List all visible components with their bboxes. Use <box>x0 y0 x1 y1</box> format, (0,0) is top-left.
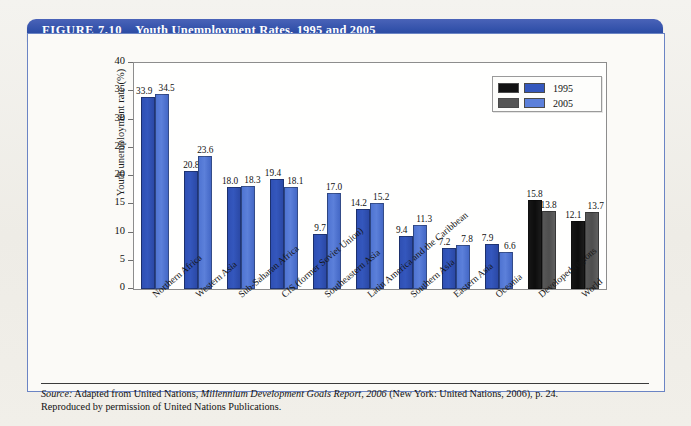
legend-item-2005: 2005 <box>498 96 596 110</box>
source-report-title: Millennium Development Goals Report, 200… <box>201 388 387 399</box>
bar-fill <box>356 209 370 289</box>
legend-label-2005: 2005 <box>553 98 573 109</box>
bar-fill <box>284 187 298 289</box>
bar-value-label: 7.8 <box>461 234 473 244</box>
bar-group: 33.934.5 <box>134 63 177 289</box>
bar-value-label: 18.1 <box>287 176 303 186</box>
bar-value-label: 15.2 <box>373 192 389 202</box>
legend-label-1995: 1995 <box>553 83 573 94</box>
legend-swatch-dark-1995 <box>498 83 519 93</box>
bar-value-label: 18.3 <box>244 175 260 185</box>
source-line1-b: (New York: United Nations, 2006), p. 24. <box>387 388 558 399</box>
bar-value-label: 9.4 <box>396 225 408 235</box>
bar-value-label: 15.8 <box>526 189 542 199</box>
bar-value-label: 9.7 <box>314 223 326 233</box>
legend-item-1995: 1995 <box>498 81 596 95</box>
bar-value-label: 19.4 <box>265 168 281 178</box>
bar-value-label: 13.7 <box>588 201 604 211</box>
y-tick-label: 20 <box>97 168 125 179</box>
source-line1-a: Adapted from United Nations, <box>72 388 200 399</box>
bar-2005: 18.3 <box>241 63 255 289</box>
bar-value-label: 18.0 <box>222 176 238 186</box>
y-tick-label: 15 <box>97 196 125 207</box>
bar-2005: 34.5 <box>155 63 169 289</box>
legend-swatch-dark-2005 <box>498 98 519 108</box>
y-tick-label: 35 <box>97 83 125 94</box>
chart-legend: 1995 2005 <box>492 76 602 112</box>
legend-swatch-blue-2005 <box>524 98 545 108</box>
source-divider <box>41 383 649 384</box>
bar-2005: 23.6 <box>198 63 212 289</box>
y-tick-label: 40 <box>97 55 125 66</box>
legend-swatch-blue-1995 <box>524 83 545 93</box>
bar-value-label: 34.5 <box>159 83 175 93</box>
source-prefix: Source: <box>41 388 72 399</box>
source-note: Source: Adapted from United Nations, Mil… <box>41 388 656 413</box>
bar-value-label: 20.8 <box>183 160 199 170</box>
bar-value-label: 13.8 <box>540 200 556 210</box>
bar-1995: 33.9 <box>141 63 155 289</box>
x-axis-category-labels: Northern AfricaWestern AsiaSub-Saharan A… <box>133 291 605 361</box>
bar-value-label: 11.3 <box>416 214 432 224</box>
source-line2: Reproduced by permission of United Natio… <box>41 401 281 412</box>
bar-2005: 7.8 <box>456 63 470 289</box>
y-tick-label: 10 <box>97 225 125 236</box>
bar-value-label: 12.1 <box>565 210 581 220</box>
bar-fill <box>198 156 212 289</box>
bar-value-label: 7.9 <box>482 233 494 243</box>
chart-area: Youth unemployment rate (%) 051015202530… <box>27 41 663 341</box>
bar-1995: 18.0 <box>227 63 241 289</box>
bar-value-label: 33.9 <box>136 86 152 96</box>
bar-fill <box>528 200 542 289</box>
bar-value-label: 23.6 <box>197 145 213 155</box>
bar-fill <box>141 97 155 289</box>
bar-value-label: 17.0 <box>326 182 342 192</box>
bar-fill <box>241 186 255 289</box>
bar-value-label: 14.2 <box>351 198 367 208</box>
y-tick-label: 5 <box>97 253 125 264</box>
bar-fill <box>155 94 169 289</box>
bar-value-label: 6.6 <box>504 241 516 251</box>
y-tick-label: 25 <box>97 140 125 151</box>
bar-group: 7.27.8 <box>434 63 477 289</box>
y-tick-label: 30 <box>97 112 125 123</box>
y-tick-label: 0 <box>97 281 125 292</box>
bar-group: 18.018.3 <box>220 63 263 289</box>
